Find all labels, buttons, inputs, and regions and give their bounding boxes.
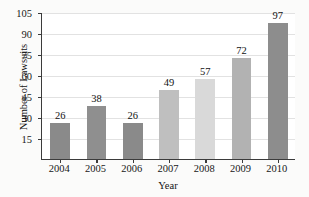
bar-value-label: 57 [200,66,211,77]
bar[interactable] [159,90,179,159]
bar-value-label: 26 [55,110,66,121]
bar-series: 26382649577297 [42,13,295,159]
x-axis-tick-label: 2009 [230,163,251,174]
bar-slot: 38 [78,13,114,159]
x-axis-title: Year [41,180,295,191]
x-axis-tick-label: 2010 [266,163,287,174]
bar-slot: 72 [223,13,259,159]
y-axis-tick-label: 60 [22,71,33,82]
x-axis-tick-label: 2006 [121,163,142,174]
y-axis-tick-label: 75 [22,50,33,61]
y-axis-tick-labels: 153045607590105 [0,13,38,160]
cropped-title-fragment [0,0,309,4]
y-axis-tick-label: 30 [22,113,33,124]
x-axis-tick-label: 2008 [194,163,215,174]
bar-slot: 57 [187,13,223,159]
bar-value-label: 72 [236,45,247,56]
bar-chart: Number of Lawsuits 153045607590105 26382… [0,0,309,197]
bar[interactable] [50,123,70,159]
bar[interactable] [232,58,252,159]
y-axis-tick-label: 90 [22,29,33,40]
y-axis-tick-label: 15 [22,134,33,145]
bar-slot: 26 [115,13,151,159]
y-axis-tick-label: 105 [16,8,32,19]
x-axis-tick-label: 2005 [85,163,106,174]
bar-value-label: 97 [273,10,284,21]
bar[interactable] [268,23,288,159]
bar-value-label: 38 [91,93,102,104]
y-axis-tick-label: 45 [22,92,33,103]
bar[interactable] [123,123,143,159]
x-axis-tick-label: 2004 [49,163,70,174]
bar-value-label: 26 [127,110,138,121]
bar-value-label: 49 [164,77,175,88]
x-axis-tick-label: 2007 [158,163,179,174]
bar-slot: 26 [42,13,78,159]
plot-area: 26382649577297 [41,13,295,160]
bar[interactable] [195,79,215,159]
bar[interactable] [87,106,107,159]
bar-slot: 49 [151,13,187,159]
bar-slot: 97 [260,13,296,159]
